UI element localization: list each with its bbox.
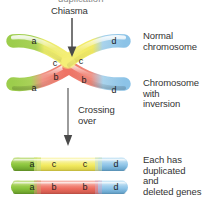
annotation-crossing-over: Crossing over bbox=[78, 105, 115, 126]
arm-lower-left bbox=[13, 66, 66, 88]
arm-lower-right bbox=[69, 64, 124, 88]
crossed-chromosome-pair bbox=[13, 37, 124, 88]
figure-canvas: duplication bbox=[0, 0, 214, 206]
arm-upper-right bbox=[68, 37, 124, 65]
crossing-over-arrow bbox=[64, 88, 72, 146]
chiasma-node bbox=[60, 57, 76, 69]
cutoff-title-text: duplication bbox=[58, 0, 103, 4]
product-chromosome-bottom bbox=[11, 181, 128, 195]
arm-upper-left bbox=[13, 37, 67, 64]
annotation-chromosome-with-inversion: Chromosome with inversion bbox=[143, 78, 199, 110]
annotation-duplicated-deleted-genes: Each has duplicated and deleted genes bbox=[143, 155, 201, 197]
product-chromosome-top bbox=[11, 158, 128, 172]
annotation-normal-chromosome: Normal chromosome bbox=[143, 31, 197, 52]
annotation-chiasma: Chiasma bbox=[51, 6, 88, 17]
cutoff-title-strip: duplication bbox=[0, 0, 214, 4]
